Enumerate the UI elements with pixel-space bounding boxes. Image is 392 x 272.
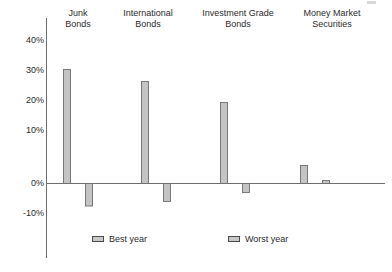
legend-swatch-best-year bbox=[92, 236, 104, 242]
bar bbox=[243, 184, 250, 193]
legend-label-worst-year: Worst year bbox=[245, 234, 288, 244]
bar bbox=[221, 103, 228, 184]
plot-area bbox=[0, 0, 392, 272]
axis-lines bbox=[47, 18, 386, 258]
legend-item-worst-year[interactable]: Worst year bbox=[228, 234, 288, 244]
bar bbox=[301, 166, 308, 184]
bar bbox=[64, 70, 71, 184]
bar bbox=[86, 184, 93, 207]
bar-chart: 40% 30% 20% 10% 0% -10% Junk Bonds Inter… bbox=[0, 0, 392, 272]
bars-group bbox=[64, 70, 330, 207]
legend-label-best-year: Best year bbox=[109, 234, 147, 244]
legend-swatch-worst-year bbox=[228, 236, 240, 242]
legend-item-best-year[interactable]: Best year bbox=[92, 234, 147, 244]
bar bbox=[323, 181, 330, 184]
bar bbox=[164, 184, 171, 202]
bar bbox=[142, 82, 149, 184]
